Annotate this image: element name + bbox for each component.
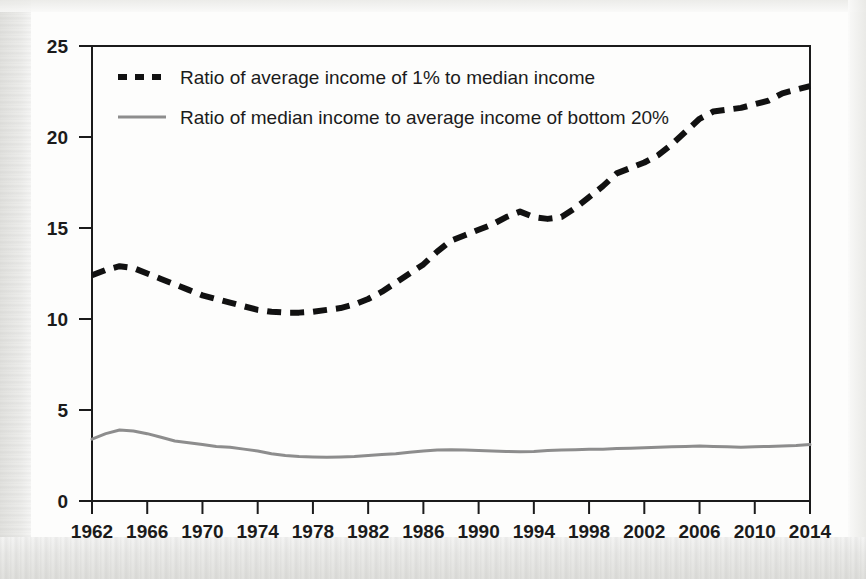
legend-label-0: Ratio of average income of 1% to median …: [180, 67, 595, 88]
y-tick-label: 0: [57, 491, 68, 512]
series-line-1: [92, 430, 810, 457]
scanned-page: 0510152025 19621966197019741978198219861…: [0, 0, 866, 579]
x-tick-label: 2002: [623, 521, 665, 542]
x-tick-label: 1974: [237, 521, 280, 542]
y-axis-ticks: [79, 46, 92, 501]
data-series-layer: [92, 86, 810, 457]
x-axis-ticks: [92, 501, 810, 514]
y-tick-label: 5: [57, 400, 68, 421]
y-tick-label: 25: [47, 36, 69, 57]
chart-legend: Ratio of average income of 1% to median …: [118, 67, 669, 128]
x-axis-tick-labels: 1962196619701974197819821986199019941998…: [71, 521, 832, 542]
y-tick-label: 15: [47, 218, 69, 239]
x-tick-label: 1990: [457, 521, 499, 542]
x-tick-label: 2014: [789, 521, 832, 542]
x-tick-label: 2006: [678, 521, 720, 542]
x-tick-label: 2010: [734, 521, 776, 542]
x-tick-label: 1978: [292, 521, 334, 542]
x-tick-label: 1970: [181, 521, 223, 542]
x-tick-label: 1962: [71, 521, 113, 542]
x-tick-label: 1998: [568, 521, 610, 542]
y-axis-tick-labels: 0510152025: [47, 36, 69, 512]
legend-label-1: Ratio of median income to average income…: [180, 107, 669, 128]
x-tick-label: 1994: [513, 521, 556, 542]
x-tick-label: 1966: [126, 521, 168, 542]
y-tick-label: 10: [47, 309, 68, 330]
y-tick-label: 20: [47, 127, 68, 148]
x-tick-label: 1986: [402, 521, 444, 542]
x-tick-label: 1982: [347, 521, 389, 542]
line-chart: 0510152025 19621966197019741978198219861…: [0, 0, 866, 579]
